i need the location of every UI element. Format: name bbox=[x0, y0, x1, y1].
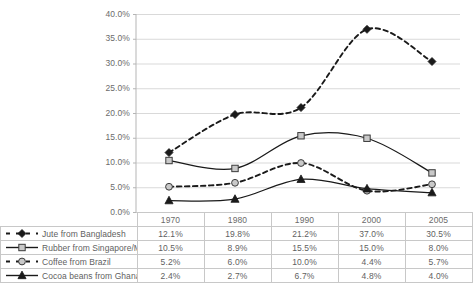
data-point-marker-square bbox=[19, 244, 25, 250]
legend-value-table: 19701980199020002005Jute from Bangladesh… bbox=[0, 212, 473, 283]
y-axis-tick-label: 35.0% bbox=[82, 33, 130, 43]
legend-item-3[interactable]: Cocoa beans from Ghana bbox=[1, 269, 138, 283]
y-axis-tick-label: 5.0% bbox=[82, 182, 130, 192]
legend-item-2[interactable]: Coffee from Brazil bbox=[1, 255, 138, 269]
column-header-2005: 2005 bbox=[405, 213, 472, 227]
table-row: Jute from Bangladesh12.1%19.8%21.2%37.0%… bbox=[1, 227, 473, 241]
data-point-marker-square bbox=[364, 135, 370, 141]
series-line-3 bbox=[165, 175, 436, 204]
column-header-1970: 1970 bbox=[137, 213, 204, 227]
y-axis-tick-label: 20.0% bbox=[82, 108, 130, 118]
data-point-marker-diamond bbox=[363, 25, 371, 33]
table-header-row: 19701980199020002005 bbox=[1, 213, 473, 227]
table-cell: 8.9% bbox=[204, 241, 271, 255]
table-row: Coffee from Brazil5.2%6.0%10.0%4.4%5.7% bbox=[1, 255, 473, 269]
table-cell: 19.8% bbox=[204, 227, 271, 241]
data-point-marker-square bbox=[429, 170, 435, 176]
legend-line-sample bbox=[5, 270, 39, 281]
legend-label: Cocoa beans from Ghana bbox=[42, 271, 137, 281]
table-cell: 5.7% bbox=[405, 255, 472, 269]
table-cell: 4.4% bbox=[338, 255, 405, 269]
y-axis-tick-label: 15.0% bbox=[82, 132, 130, 142]
data-point-marker-circle bbox=[19, 258, 26, 265]
table-cell: 6.7% bbox=[271, 269, 338, 283]
table-cell: 4.8% bbox=[338, 269, 405, 283]
data-point-marker-square bbox=[298, 133, 304, 139]
y-axis-tick-label: 10.0% bbox=[82, 157, 130, 167]
legend-item-0[interactable]: Jute from Bangladesh bbox=[1, 227, 138, 241]
y-axis-tick-label: 40.0% bbox=[82, 9, 130, 19]
table-cell: 10.5% bbox=[137, 241, 204, 255]
data-point-marker-square bbox=[166, 157, 172, 163]
data-point-marker-circle bbox=[298, 160, 305, 167]
table-cell: 6.0% bbox=[204, 255, 271, 269]
legend-label: Jute from Bangladesh bbox=[42, 229, 126, 239]
data-point-marker-diamond bbox=[231, 110, 239, 118]
table-cell: 21.2% bbox=[271, 227, 338, 241]
legend-line-sample bbox=[5, 242, 39, 253]
table-cell: 15.5% bbox=[271, 241, 338, 255]
column-header-1980: 1980 bbox=[204, 213, 271, 227]
table-cell: 2.4% bbox=[137, 269, 204, 283]
data-point-marker-circle bbox=[429, 181, 436, 188]
table-cell: 8.0% bbox=[405, 241, 472, 255]
legend-label: Coffee from Brazil bbox=[42, 257, 111, 267]
table-corner-cell bbox=[1, 213, 138, 227]
legend-item-1[interactable]: Rubber from Singapore/Malaysia bbox=[1, 241, 138, 255]
data-point-marker-circle bbox=[166, 183, 173, 190]
series-line-1 bbox=[166, 133, 435, 177]
table-cell: 5.2% bbox=[137, 255, 204, 269]
table-cell: 12.1% bbox=[137, 227, 204, 241]
data-table-legend: 19701980199020002005Jute from Bangladesh… bbox=[0, 212, 464, 283]
legend-label: Rubber from Singapore/Malaysia bbox=[42, 243, 137, 253]
table-cell: 15.0% bbox=[338, 241, 405, 255]
column-header-2000: 2000 bbox=[338, 213, 405, 227]
data-point-marker-circle bbox=[232, 179, 239, 186]
table-cell: 37.0% bbox=[338, 227, 405, 241]
table-cell: 10.0% bbox=[271, 255, 338, 269]
table-row: Rubber from Singapore/Malaysia10.5%8.9%1… bbox=[1, 241, 473, 255]
chart-plot-area: 0.0%5.0%10.0%15.0%20.0%25.0%30.0%35.0%40… bbox=[0, 0, 464, 214]
table-row: Cocoa beans from Ghana2.4%2.7%6.7%4.8%4.… bbox=[1, 269, 473, 283]
table-cell: 2.7% bbox=[204, 269, 271, 283]
column-header-1990: 1990 bbox=[271, 213, 338, 227]
y-axis-tick-label: 30.0% bbox=[82, 58, 130, 68]
legend-line-sample bbox=[5, 228, 39, 239]
data-point-marker-diamond bbox=[18, 230, 26, 238]
table-cell: 30.5% bbox=[405, 227, 472, 241]
series-group bbox=[165, 25, 436, 203]
chart-canvas bbox=[0, 0, 464, 214]
legend-line-sample bbox=[5, 256, 39, 267]
table-cell: 4.0% bbox=[405, 269, 472, 283]
y-axis-tick-label: 25.0% bbox=[82, 83, 130, 93]
data-point-marker-square bbox=[232, 165, 238, 171]
axis-group bbox=[133, 14, 136, 213]
